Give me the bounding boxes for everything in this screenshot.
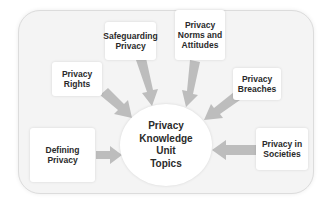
topic-defining-privacy: Defining Privacy (30, 128, 95, 182)
center-topic-hub: Privacy Knowledge Unit Topics (120, 104, 212, 186)
arrow-icon-defining (96, 146, 122, 164)
arrow-icon-rights (100, 88, 132, 118)
arrow-icon-societies (212, 140, 256, 160)
topic-label: Privacy Breaches (238, 74, 276, 94)
topic-label: Safeguarding Privacy (103, 31, 157, 51)
topic-privacy-norms-and-attitudes: Privacy Norms and Attitudes (175, 10, 225, 60)
center-label: Privacy Knowledge Unit Topics (139, 120, 192, 170)
topic-privacy-in-societies: Privacy in Societies (256, 128, 308, 170)
arrow-icon-norms (182, 60, 200, 107)
topic-label: Privacy Norms and Attitudes (178, 20, 222, 50)
topic-label: Defining Privacy (30, 145, 95, 165)
arrow-icon-safeguarding (136, 58, 158, 106)
topic-privacy-rights: Privacy Rights (52, 62, 102, 96)
topic-label: Privacy Rights (62, 69, 92, 89)
topic-safeguarding-privacy: Safeguarding Privacy (105, 22, 156, 60)
topic-privacy-breaches: Privacy Breaches (233, 68, 281, 100)
topic-label: Privacy in Societies (262, 139, 302, 159)
